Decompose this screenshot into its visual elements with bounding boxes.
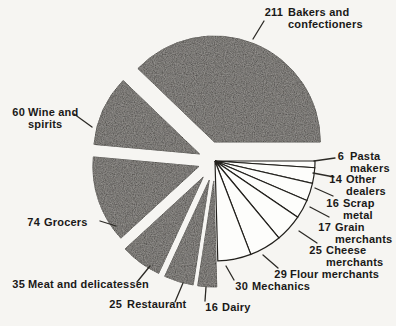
label-grain-merchants-value: 17	[318, 221, 331, 233]
label-mechanics-line-1: Mechanics	[252, 280, 310, 292]
label-restaurant-value: 25	[109, 298, 122, 310]
label-scrap-metal-line-2: metal	[343, 209, 373, 221]
leader-dairy	[205, 287, 206, 301]
label-other-dealers-line-1: Other	[346, 173, 377, 185]
leader-flour-merchants	[263, 255, 278, 268]
leader-scrap-metal	[315, 188, 333, 196]
label-pasta-makers-value: 6	[338, 150, 344, 162]
label-cheese-merchants-value: 25	[309, 244, 322, 256]
label-pasta-makers-line-1: Pasta	[350, 150, 381, 162]
leader-cheese-merchants	[299, 231, 317, 243]
label-scrap-metal-line-1: Scrap	[343, 197, 375, 209]
label-meat-and-delicatessen-line-1: Meat and delicatessen	[28, 278, 149, 290]
pie-chart: 6Pastamakers14Otherdealers16Scrapmetal17…	[0, 0, 396, 326]
slices-group	[93, 36, 320, 287]
label-grain-merchants-line-1: Grain	[335, 221, 365, 233]
pie-chart-figure: 6Pastamakers14Otherdealers16Scrapmetal17…	[0, 0, 396, 326]
label-scrap-metal-value: 16	[326, 197, 339, 209]
label-bakers-and-confectioners-line-2: confectioners	[288, 18, 363, 30]
label-grocers-line-1: Grocers	[44, 216, 88, 228]
label-other-dealers-value: 14	[329, 173, 342, 185]
leader-bakers-and-confectioners	[253, 21, 264, 39]
label-wine-and-spirits-value: 60	[12, 106, 25, 118]
label-meat-and-delicatessen-value: 35	[12, 278, 25, 290]
leader-pasta-makers	[314, 158, 335, 161]
label-dairy-line-1: Dairy	[222, 301, 251, 313]
label-cheese-merchants-line-1: Cheese	[326, 244, 366, 256]
label-bakers-and-confectioners-value: 211	[265, 6, 283, 18]
label-wine-and-spirits-line-1: Wine and	[28, 106, 78, 118]
label-other-dealers-line-2: dealers	[346, 185, 386, 197]
leader-mechanics	[226, 266, 234, 280]
label-restaurant-line-1: Restaurant	[127, 298, 187, 310]
label-mechanics-value: 30	[235, 280, 248, 292]
label-bakers-and-confectioners-line-1: Bakers and	[288, 6, 349, 18]
label-wine-and-spirits-line-2: spirits	[28, 118, 62, 130]
label-flour-merchants-value: 29	[274, 268, 287, 280]
label-grocers-value: 74	[27, 216, 40, 228]
label-flour-merchants-line-1: Flour merchants	[290, 268, 379, 280]
label-cheese-merchants-line-2: merchants	[326, 256, 383, 268]
label-dairy-value: 16	[205, 301, 218, 313]
